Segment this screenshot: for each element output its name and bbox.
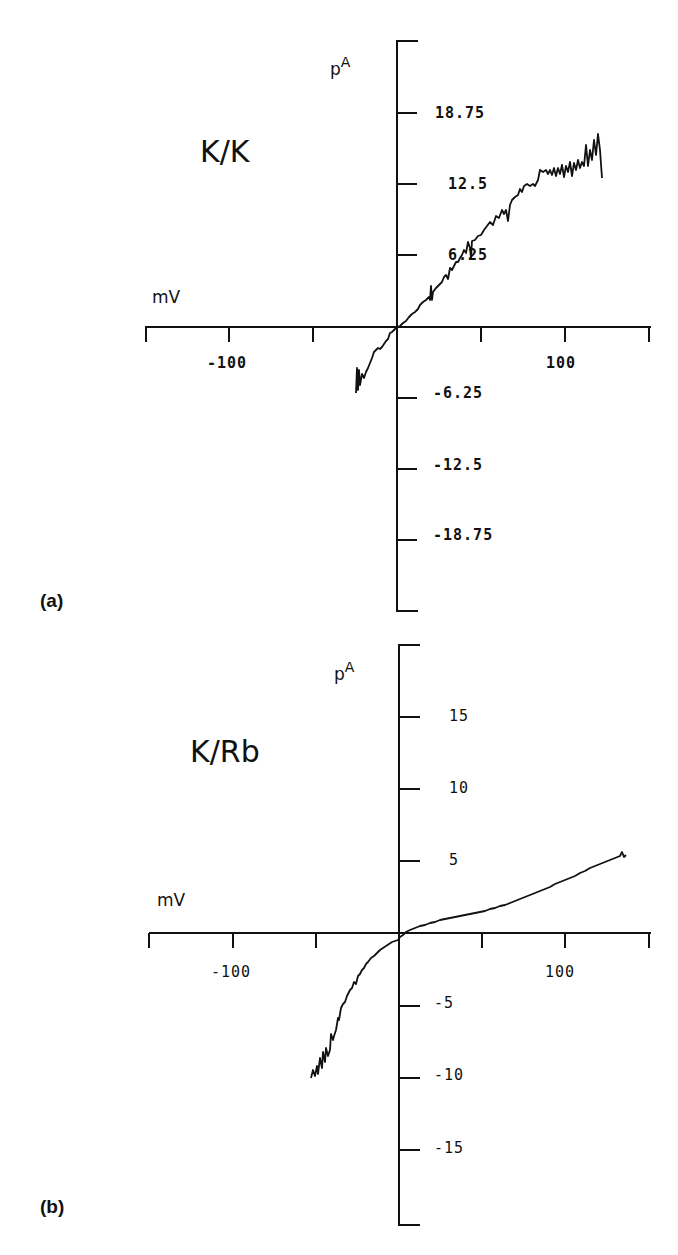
y-tick-label: -12.5 <box>433 456 483 474</box>
x-tick-label: 100 <box>546 354 576 372</box>
x-tick-label: -100 <box>207 354 247 372</box>
y-tick-label: 10 <box>449 779 469 797</box>
panel-label: (b) <box>40 1196 64 1217</box>
y-tick-label: -15 <box>434 1139 464 1157</box>
y-tick-label: 18.75 <box>435 104 485 122</box>
data-trace-b <box>311 852 626 1078</box>
chart-title: K/K <box>200 134 251 169</box>
y-unit-label: pA <box>334 659 355 684</box>
panel-label: (a) <box>40 590 63 611</box>
y-tick-label: 12.5 <box>448 175 488 193</box>
y-tick-label: 15 <box>449 707 469 725</box>
figure: 18.75 12.5 6.25 -6.25 -12.5 -18.75 -100 … <box>0 0 678 1255</box>
y-tick-label: -5 <box>434 994 454 1012</box>
x-tick-label: 100 <box>545 963 575 981</box>
chart-title: K/Rb <box>190 734 260 769</box>
panel-a: 18.75 12.5 6.25 -6.25 -12.5 -18.75 -100 … <box>40 40 651 611</box>
y-tick-label: 5 <box>449 851 459 869</box>
panel-b: 15 10 5 -5 -10 -15 -100 100 pA mV K/Rb (… <box>40 644 651 1226</box>
x-unit-label: mV <box>157 890 186 910</box>
x-tick-label: -100 <box>211 963 251 981</box>
y-tick-label: -6.25 <box>433 384 483 402</box>
y-ticks-b <box>398 645 420 1225</box>
y-tick-label: -10 <box>434 1066 464 1084</box>
y-tick-label: 6.25 <box>448 246 488 264</box>
y-tick-label: -18.75 <box>433 526 493 544</box>
y-unit-label: pA <box>330 54 351 79</box>
x-unit-label: mV <box>152 287 181 307</box>
